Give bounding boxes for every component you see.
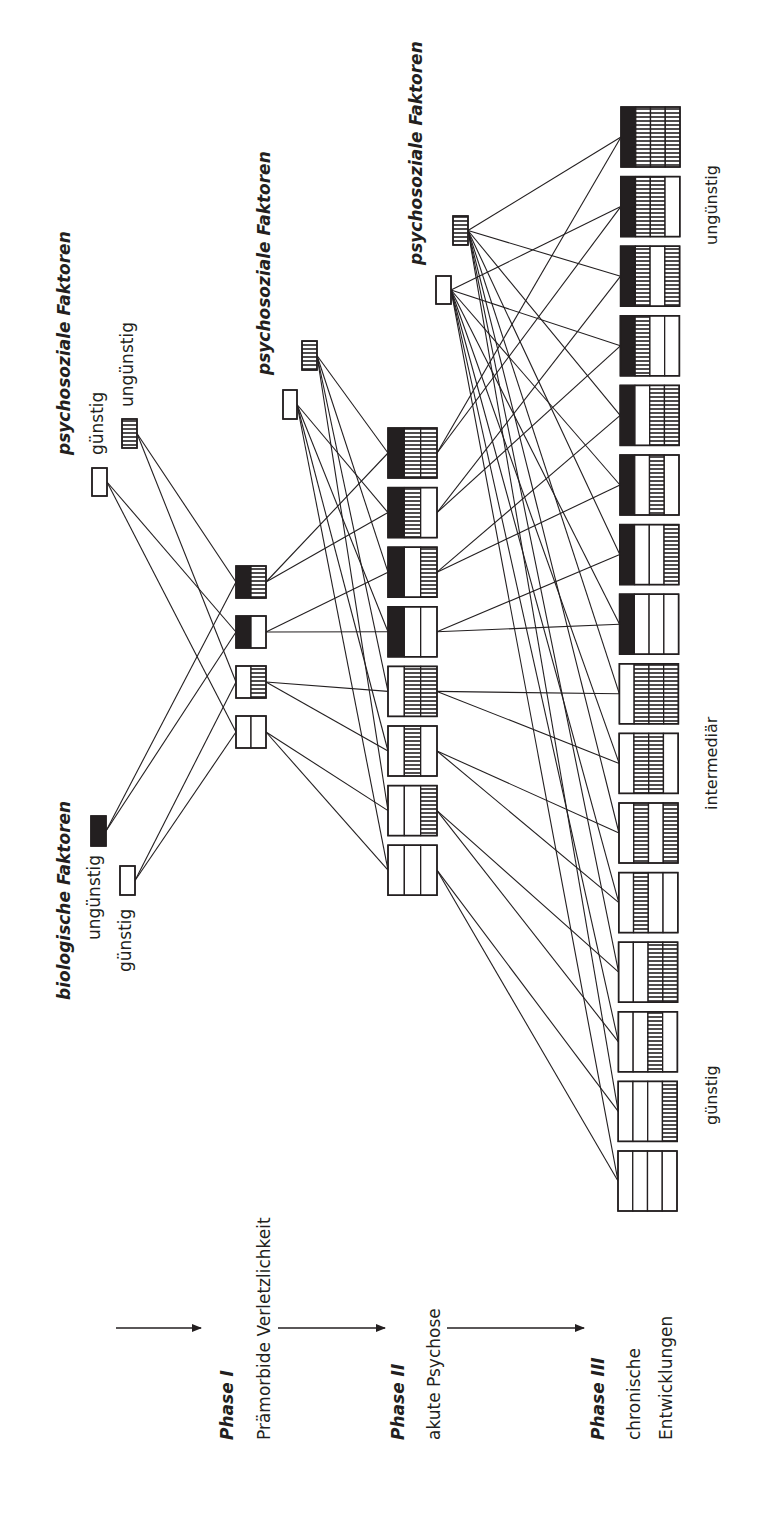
connector-line: [451, 290, 620, 624]
phase2-box: [388, 666, 437, 716]
connector-line: [468, 137, 621, 231]
connector-line: [135, 682, 236, 881]
phase3-box: [619, 664, 678, 724]
box-segment-hatch: [650, 177, 665, 237]
box-segment-empty: [650, 246, 665, 306]
phase1-box: [236, 666, 266, 698]
box-segment-hatch: [421, 428, 437, 478]
box-segment-hatch: [651, 107, 666, 167]
phase3-box: [620, 525, 679, 585]
bio-favorable-box: [120, 866, 135, 895]
box-segment-empty: [664, 594, 679, 654]
connector-line: [437, 276, 621, 512]
psy1-factors-title: psychosoziale Faktoren: [54, 231, 74, 456]
box-segment-hatch: [251, 666, 266, 698]
box-segment-empty: [633, 942, 648, 1002]
box-segment-hatch: [663, 803, 678, 863]
phase2-box: [388, 726, 437, 776]
box-segment-hatch: [404, 428, 420, 478]
box-segment-empty: [388, 845, 404, 895]
connector-line: [437, 751, 619, 833]
phase3-box: [621, 177, 680, 237]
phase2-box: [388, 845, 437, 895]
box-segment-empty: [635, 455, 650, 515]
connector-line: [437, 415, 620, 572]
box-segment-empty: [388, 666, 404, 716]
phase2-box: [388, 786, 437, 836]
box-segment-hatch: [665, 246, 680, 306]
bio-unfavorable-box: [91, 816, 106, 846]
box-segment-hatch: [665, 107, 680, 167]
box-segment-hatch: [635, 246, 650, 306]
phase3-box: [621, 246, 680, 306]
box-segment-hatch: [649, 733, 664, 793]
phase1-title: Phase I: [217, 1370, 237, 1440]
box-segment-empty: [618, 1081, 633, 1141]
bio-unfavorable-label: ungünstig: [84, 855, 104, 940]
box-segment-empty: [92, 468, 107, 496]
phase1-box: [236, 566, 266, 598]
box-segment-hatch: [634, 733, 649, 793]
connector-line: [468, 231, 620, 555]
box-segment-empty: [404, 786, 420, 836]
box-segment-black: [388, 547, 404, 597]
phase3-box: [621, 107, 680, 167]
box-segment-empty: [665, 177, 680, 237]
box-segment-empty: [664, 455, 679, 515]
connector-line: [437, 346, 620, 513]
box-segment-empty: [251, 716, 266, 748]
box-segment-black: [621, 107, 636, 167]
connector-line: [468, 231, 619, 694]
box-segment-empty: [665, 316, 680, 376]
connector-line: [266, 572, 388, 632]
connection-lines: [106, 137, 621, 1181]
box-segment-black: [621, 246, 636, 306]
box-segment-empty: [650, 316, 665, 376]
connector-line: [451, 290, 620, 346]
phase2-box: [388, 428, 437, 478]
phase2-title: Phase II: [388, 1364, 408, 1440]
connector-line: [137, 434, 236, 683]
connector-line: [437, 624, 620, 632]
psy3-favorable-box: [436, 276, 451, 304]
phase2-subtitle: akute Psychose: [424, 1308, 444, 1440]
box-segment-empty: [649, 594, 664, 654]
connector-line: [437, 691, 619, 693]
outcome-intermediate-label: intermediär: [702, 716, 721, 810]
psy1-unfavorable-box: [122, 419, 137, 448]
connector-line: [437, 811, 619, 973]
box-segment-empty: [436, 276, 451, 304]
box-segment-empty: [619, 664, 634, 724]
box-segment-empty: [635, 385, 650, 445]
box-segment-hatch: [404, 666, 420, 716]
box-segment-hatch: [649, 664, 664, 724]
box-segment-hatch: [648, 1012, 663, 1072]
box-segment-hatch: [635, 316, 650, 376]
psy2-favorable-box: [283, 390, 297, 419]
box-segment-empty: [649, 525, 664, 585]
box-segment-hatch: [634, 664, 649, 724]
box-segment-black: [388, 488, 404, 538]
phase3-box: [618, 1012, 677, 1072]
box-segment-empty: [633, 1151, 648, 1211]
box-segment-black: [388, 428, 404, 478]
box-segment-empty: [635, 525, 650, 585]
box-segment-empty: [388, 786, 404, 836]
box-segment-hatch: [634, 873, 649, 933]
connector-line: [317, 356, 388, 811]
box-segment-hatch: [421, 547, 437, 597]
diagram-canvas: biologische Faktorenungünstiggünstigpsyc…: [0, 0, 763, 1513]
connector-line: [468, 231, 619, 973]
box-segment-hatch: [302, 341, 317, 370]
phase2-box: [388, 607, 437, 657]
box-segment-empty: [619, 942, 634, 1002]
phase3-box: [620, 594, 679, 654]
connector-line: [317, 356, 388, 692]
box-segment-hatch: [421, 666, 437, 716]
box-segment-empty: [619, 733, 634, 793]
box-segment-empty: [421, 845, 437, 895]
box-segment-empty: [662, 1151, 677, 1211]
box-segment-hatch: [650, 455, 665, 515]
phase3-box: [619, 803, 678, 863]
box-segment-hatch: [650, 385, 665, 445]
